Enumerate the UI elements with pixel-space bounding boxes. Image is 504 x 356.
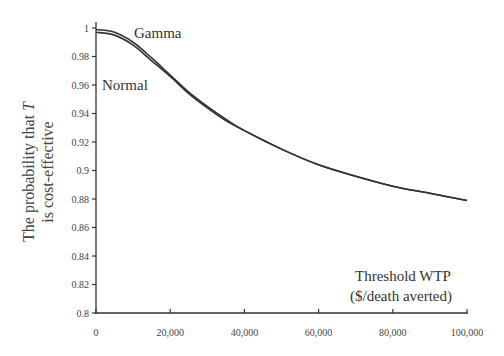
y-tick-label: 0.8	[77, 308, 90, 319]
x-axis-label-line1: Threshold WTP	[355, 268, 451, 284]
y-axis-label-line2: is cost-effective	[39, 121, 56, 222]
gamma-annotation: Gamma	[134, 25, 182, 41]
x-tick-label: 40,000	[231, 327, 259, 338]
y-tick-label: 0.98	[72, 51, 90, 62]
x-tick-label: 0	[94, 327, 99, 338]
y-axis-ticks: 0.80.820.840.860.880.90.920.940.960.981	[72, 23, 97, 319]
y-tick-label: 0.94	[72, 108, 90, 119]
y-tick-label: 0.96	[72, 80, 90, 91]
y-tick-label: 1	[84, 23, 89, 34]
x-tick-label: 60,000	[305, 327, 333, 338]
y-tick-label: 0.88	[72, 194, 90, 205]
x-tick-label: 20,000	[156, 327, 184, 338]
x-tick-label: 80,000	[379, 327, 407, 338]
y-axis-label-line1: The probability that T	[20, 101, 38, 242]
y-tick-label: 0.9	[77, 165, 90, 176]
y-tick-label: 0.84	[72, 251, 90, 262]
x-axis-label-line2: ($/death averted)	[350, 288, 452, 305]
y-axis-label: The probability that T is cost-effective	[20, 101, 56, 242]
y-tick-label: 0.86	[72, 222, 90, 233]
y-tick-label: 0.92	[72, 137, 90, 148]
series-line-gamma	[96, 29, 467, 200]
y-tick-label: 0.82	[72, 279, 90, 290]
x-tick-label: 100,000	[451, 327, 484, 338]
chart: 0.80.820.840.860.880.90.920.940.960.981 …	[0, 0, 504, 356]
plot-series	[96, 29, 467, 200]
normal-annotation: Normal	[102, 77, 148, 93]
